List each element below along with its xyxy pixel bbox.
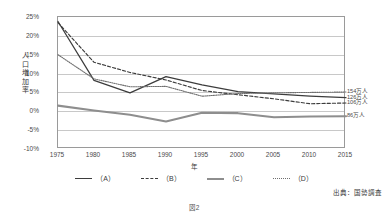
- legend-item[interactable]: （B）: [141, 173, 181, 183]
- legend-item[interactable]: （D）: [273, 173, 313, 183]
- x-axis-tick-label: 1985: [114, 151, 144, 159]
- legend-label: （C）: [228, 173, 247, 183]
- y-axis-tick-label: -5%: [27, 126, 39, 133]
- y-axis-tick-label: 20%: [26, 31, 39, 38]
- x-axis-tick-label: 1975: [42, 151, 72, 159]
- x-axis-tick-label: 2000: [222, 151, 252, 159]
- legend-item[interactable]: （C）: [207, 173, 247, 183]
- y-axis-tick-label: 25%: [26, 13, 39, 20]
- x-axis-title: 年: [0, 161, 388, 171]
- x-axis-tick-label: 2015: [330, 151, 360, 159]
- x-axis-tick-label: 1980: [78, 151, 108, 159]
- endpoint-annotation: 106万人: [347, 99, 368, 105]
- legend-line-icon: [75, 175, 92, 181]
- legend-item[interactable]: （A）: [75, 173, 115, 183]
- series-lines: [58, 17, 346, 149]
- y-axis-tick-label: -10%: [24, 145, 39, 152]
- endpoint-annotation: 86万人: [347, 112, 365, 118]
- series-line: [58, 55, 346, 96]
- legend-line-icon: [273, 175, 290, 181]
- y-axis-tick-label: 0%: [30, 107, 39, 114]
- series-line: [58, 106, 346, 122]
- x-axis-tick-label: 1990: [150, 151, 180, 159]
- legend-line-icon: [141, 175, 158, 181]
- y-axis-title: 人口増加率: [20, 52, 31, 95]
- cropped-header-text: [6, 0, 256, 6]
- figure-caption: 図2: [0, 202, 388, 212]
- source-note: 出典：国勢調査: [333, 187, 382, 197]
- legend-label: （B）: [162, 173, 181, 183]
- legend-label: （A）: [96, 173, 115, 183]
- legend-line-icon: [207, 175, 224, 181]
- x-axis-tick-label: 2005: [258, 151, 288, 159]
- y-axis-tick-label: 5%: [30, 88, 39, 95]
- x-axis-tick-label: 2010: [294, 151, 324, 159]
- series-line: [58, 22, 346, 98]
- series-line: [58, 23, 346, 104]
- x-axis-tick-label: 1995: [186, 151, 216, 159]
- legend-label: （D）: [294, 173, 313, 183]
- plot-box: [57, 16, 345, 148]
- chart-legend: （A）（B）（C）（D）: [0, 173, 388, 183]
- chart-area: 25%20%15%10%5%0%-5%-10% 人口増加率 1975198019…: [0, 8, 388, 156]
- figure-container: 25%20%15%10%5%0%-5%-10% 人口増加率 1975198019…: [0, 0, 388, 215]
